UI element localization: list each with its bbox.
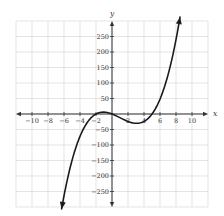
x-axis-arrow-left-icon <box>16 112 21 116</box>
x-tick-label: −2 <box>91 117 101 125</box>
x-axis-label: x <box>213 109 218 118</box>
y-axis-label: y <box>109 9 115 18</box>
x-axis-arrow-right-icon <box>203 112 208 116</box>
cubic-curve <box>62 17 180 209</box>
y-tick-label: 200 <box>97 48 109 56</box>
x-tick-label: −10 <box>25 117 39 125</box>
y-tick-label: −200 <box>91 172 109 180</box>
y-axis-arrow-down-icon <box>110 202 114 207</box>
x-tick-label: 6 <box>158 117 162 125</box>
x-tick-label: −6 <box>59 117 69 125</box>
y-tick-label: 50 <box>101 95 109 103</box>
y-tick-label: 100 <box>97 79 109 87</box>
x-tick-label: −8 <box>43 117 53 125</box>
y-tick-label: −250 <box>91 188 109 196</box>
x-tick-label: 8 <box>174 117 178 125</box>
y-axis-arrow-up-icon <box>110 21 114 26</box>
y-tick-label: 150 <box>97 64 109 72</box>
cubic-function-graph: −10−8−6−4−224681025020015010050−50−100−1… <box>0 0 224 216</box>
curve-arrow-down-icon <box>60 201 66 208</box>
y-tick-label: 250 <box>97 33 109 41</box>
y-tick-label: −100 <box>91 141 109 149</box>
y-tick-label: −50 <box>95 126 109 134</box>
y-tick-label: −150 <box>91 157 109 165</box>
x-tick-label: 10 <box>188 117 196 125</box>
x-tick-label: −4 <box>75 117 85 125</box>
function-curve <box>60 17 182 209</box>
